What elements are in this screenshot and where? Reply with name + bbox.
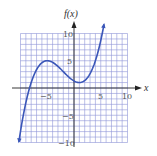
y-axis-label: f(x) — [64, 8, 79, 20]
function-graph: f(x) x −5 5 10 10 5 −5 −10 — [0, 0, 157, 156]
curve-end-arrow-icon — [101, 23, 105, 28]
function-curve — [19, 24, 104, 141]
y-tick-label: −5 — [62, 112, 74, 121]
x-axis-arrow-icon — [135, 86, 142, 91]
y-tick-label: −10 — [58, 139, 75, 148]
y-tick-label: 10 — [63, 30, 73, 39]
x-tick-label: −5 — [40, 92, 52, 101]
x-axis-label: x — [143, 82, 149, 93]
x-tick-label: 5 — [98, 92, 103, 101]
x-tick-label: 10 — [122, 92, 132, 101]
y-axis-arrow-icon — [72, 21, 77, 28]
y-tick-label: 5 — [67, 57, 72, 66]
